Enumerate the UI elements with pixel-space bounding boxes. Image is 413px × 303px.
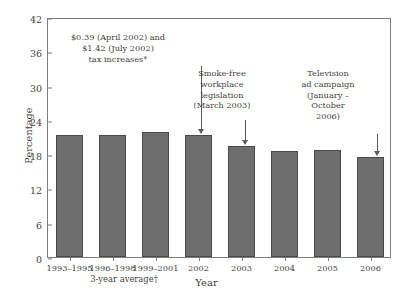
x-axis-tick-label: 2006 <box>360 263 381 273</box>
annotation-tax-increase: $0.39 (April 2002) and$1.42 (July 2002)t… <box>71 32 165 64</box>
x-axis-tick-mark <box>371 257 372 261</box>
annotation-line: ad campaign <box>301 79 354 90</box>
x-axis-tick-label: 1993–1995 <box>47 263 93 273</box>
y-axis-tick-mark <box>48 87 52 88</box>
x-axis-tick-mark <box>113 257 114 261</box>
annotation-line: tax increases* <box>71 54 165 65</box>
bar <box>99 135 126 257</box>
annotation-line: $0.39 (April 2002) and <box>71 32 165 43</box>
x-axis-title: Year <box>0 277 413 288</box>
y-axis-tick-label: 24 <box>30 116 48 127</box>
annotation-line: workplace <box>194 79 251 90</box>
y-axis-tick-mark <box>48 224 52 225</box>
bar <box>185 135 212 257</box>
y-axis-tick-mark <box>48 259 52 260</box>
y-axis-tick-label: 36 <box>30 48 48 59</box>
x-axis-tick-label: 1996–1998 <box>90 263 136 273</box>
annotation-arrow-head <box>242 140 248 145</box>
y-axis-tick-mark <box>48 156 52 157</box>
bar <box>314 150 341 257</box>
x-axis-tick-label: 2004 <box>274 263 295 273</box>
y-axis-title: Percentage <box>23 76 34 196</box>
x-axis-tick-mark <box>199 257 200 261</box>
y-axis-tick-mark <box>48 19 52 20</box>
bar <box>271 151 298 257</box>
x-axis-tick-mark <box>156 257 157 261</box>
annotation-arrow-head <box>374 151 380 156</box>
x-axis-tick-mark <box>328 257 329 261</box>
annotation-line: 2006) <box>301 111 354 122</box>
y-axis-tick-label: 30 <box>30 82 48 93</box>
annotation-line: (January – <box>301 90 354 101</box>
y-axis-tick-label: 12 <box>30 185 48 196</box>
bar <box>357 157 384 257</box>
y-axis-tick-label: 18 <box>30 151 48 162</box>
x-axis-tick-label: 2002 <box>188 263 209 273</box>
annotation-line: Television <box>301 68 354 79</box>
x-axis-tick-label: 2005 <box>317 263 338 273</box>
y-axis-tick-label: 42 <box>30 14 48 25</box>
annotation-line: legislation <box>194 90 251 101</box>
annotation-line: (March 2003) <box>194 100 251 111</box>
bar <box>56 135 83 257</box>
x-axis-tick-mark <box>242 257 243 261</box>
annotation-arrow-line <box>245 120 246 140</box>
annotation-arrow-head <box>198 129 204 134</box>
annotation-line: Smoke-free <box>194 68 251 79</box>
y-axis-tick-mark <box>48 53 52 54</box>
x-axis-tick-mark <box>285 257 286 261</box>
annotation-line: $1.42 (July 2002) <box>71 43 165 54</box>
y-axis-tick-label: 6 <box>36 219 48 230</box>
y-axis-tick-mark <box>48 121 52 122</box>
annotation-arrow-line <box>377 134 378 151</box>
annotation-television-ad-campaign: Televisionad campaign(January –October20… <box>301 68 354 122</box>
x-axis-tick-mark <box>70 257 71 261</box>
x-axis-tick-label: 2003 <box>231 263 252 273</box>
bar <box>142 132 169 257</box>
annotation-smoke-free-legislation: Smoke-freeworkplacelegislation(March 200… <box>194 68 251 111</box>
bar-chart: Percentage 061218243036421993–19951996–1… <box>0 0 413 303</box>
y-axis-tick-mark <box>48 190 52 191</box>
annotation-line: October <box>301 100 354 111</box>
x-axis-tick-label: 1999–2001 <box>133 263 179 273</box>
bar <box>228 146 255 257</box>
